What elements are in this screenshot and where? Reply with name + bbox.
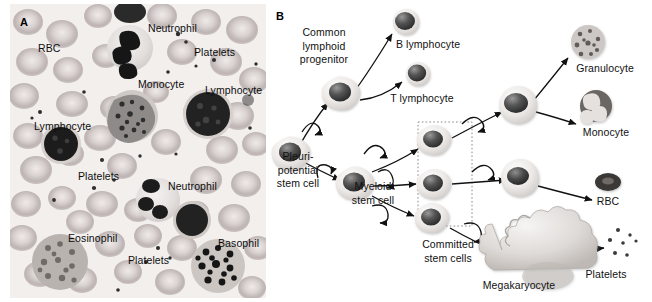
label-basophil: Basophil bbox=[218, 237, 259, 249]
label-neutrophil-lower: Neutrophil bbox=[168, 180, 217, 192]
label-lymphocyte-left: Lymphocyte bbox=[34, 120, 91, 132]
cell-committed-stem-3 bbox=[415, 203, 450, 233]
label-monocyte: Monocyte bbox=[138, 78, 184, 90]
label-b-lymphocyte: B lymphocyte bbox=[389, 38, 467, 51]
cell-lymphocyte-small bbox=[173, 201, 211, 239]
figure-root: A RBC Neutrophil Platelets Monocyte Lymp… bbox=[0, 0, 652, 302]
label-platelets-bottom: Platelets bbox=[128, 254, 169, 266]
cell-monocyte-mature bbox=[580, 90, 612, 124]
label-committed-stem-cells: Committedstem cells bbox=[414, 238, 482, 265]
cell-granulocyte bbox=[571, 25, 605, 59]
label-myeloid-stem-cell: Myeloidstem cell bbox=[342, 180, 404, 207]
label-megakaryocyte: Megakaryocyte bbox=[474, 279, 564, 292]
cell-committed-stem-1 bbox=[417, 125, 452, 155]
label-rbc: RBC bbox=[38, 42, 60, 54]
cell-rbc bbox=[595, 173, 621, 191]
platelet-fragments bbox=[608, 228, 638, 257]
cell-erythroblast bbox=[501, 159, 539, 197]
label-granulocyte: Granulocyte bbox=[567, 62, 643, 75]
label-platelets-mid: Platelets bbox=[78, 170, 119, 182]
panel-b-letter: B bbox=[276, 10, 284, 22]
label-t-lymphocyte: T lymphocyte bbox=[383, 92, 461, 105]
cell-common-lymphoid-progenitor bbox=[322, 76, 360, 110]
cell-t-lymphocyte bbox=[406, 62, 430, 86]
label-eosinophil: Eosinophil bbox=[68, 232, 117, 244]
panel-a-blood-smear: A RBC Neutrophil Platelets Monocyte Lymp… bbox=[10, 4, 266, 298]
label-platelets-mature: Platelets bbox=[576, 268, 636, 281]
label-platelets-top: Platelets bbox=[194, 46, 235, 58]
cell-lymphocyte-right bbox=[183, 89, 233, 139]
cell-b-lymphocyte bbox=[393, 9, 419, 35]
label-neutrophil-top: Neutrophil bbox=[148, 22, 197, 34]
panel-b-lineage: B Commonlymphoidprogenitor B lymphocyte … bbox=[266, 0, 652, 302]
label-monocyte-mature: Monocyte bbox=[573, 126, 639, 139]
label-common-lymphoid-progenitor: Commonlymphoidprogenitor bbox=[288, 26, 360, 67]
label-pleuripotential-stem-cell: Pleuri-potentialstem cell bbox=[268, 150, 328, 191]
cell-committed-stem-2 bbox=[417, 169, 452, 199]
cell-granulocyte-monocyte-progenitor bbox=[499, 86, 537, 124]
panel-a-letter: A bbox=[20, 16, 28, 28]
label-lymphocyte-right: Lymphocyte bbox=[205, 84, 262, 96]
label-rbc-mature: RBC bbox=[590, 195, 626, 208]
